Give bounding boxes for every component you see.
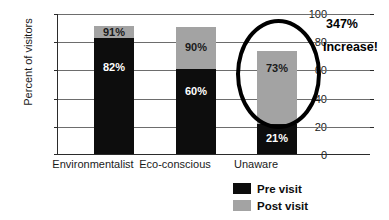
bar-group-environmentalist[interactable]: 91% 82%	[94, 13, 134, 154]
legend-label-pre-visit: Pre visit	[257, 183, 302, 195]
plot-area: 91% 82% 90% 60% 73% 21%	[57, 14, 370, 155]
y-tick-right-60	[370, 70, 374, 71]
y-tick-20	[54, 127, 58, 128]
legend-item-pre-visit[interactable]: Pre visit	[233, 180, 308, 197]
annotation-percent: 347%	[326, 17, 358, 31]
highlight-ellipse-annotation	[236, 19, 321, 129]
y-tick-80	[54, 42, 58, 43]
bar-post-label-eco-conscious: 90%	[176, 42, 216, 53]
y-axis-title: Percent of visitors	[22, 0, 34, 137]
legend-item-post-visit[interactable]: Post visit	[233, 197, 308, 214]
y-tick-right-40	[370, 99, 374, 100]
y-tick-40	[54, 99, 58, 100]
bar-post-label-environmentalist: 91%	[94, 27, 134, 38]
legend-swatch-post-visit	[233, 200, 251, 211]
legend: Pre visit Post visit	[233, 180, 308, 214]
bar-pre-eco-conscious[interactable]: 60%	[176, 69, 216, 154]
bar-group-eco-conscious[interactable]: 90% 60%	[176, 13, 216, 154]
bar-post-environmentalist[interactable]: 91%	[94, 26, 134, 39]
bar-pre-label-unaware: 21%	[257, 133, 297, 144]
legend-swatch-pre-visit	[233, 183, 251, 194]
y-tick-right-100	[370, 14, 374, 15]
y-tick-right-20	[370, 127, 374, 128]
y-tick-100	[54, 14, 58, 15]
bar-post-eco-conscious[interactable]: 90%	[176, 27, 216, 69]
legend-label-post-visit: Post visit	[257, 200, 308, 212]
annotation-increase: Increase!	[323, 40, 378, 54]
bar-pre-label-environmentalist: 82%	[94, 62, 134, 73]
y-tick-0	[54, 154, 58, 155]
bar-chart: Percent of visitors 100 80 60 40 20 0 91…	[0, 0, 389, 220]
x-tick-label-unaware: Unaware	[196, 158, 316, 170]
bar-pre-environmentalist[interactable]: 82%	[94, 38, 134, 154]
bar-pre-label-eco-conscious: 60%	[176, 86, 216, 97]
y-tick-60	[54, 70, 58, 71]
